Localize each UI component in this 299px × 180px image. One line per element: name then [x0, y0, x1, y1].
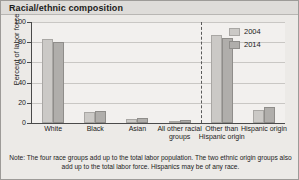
- gridline: [32, 62, 285, 63]
- legend-swatch-2004-icon: [229, 28, 240, 36]
- y-tick-label: 20: [1, 99, 26, 106]
- legend-item-2014: 2014: [229, 40, 287, 49]
- y-tick-label: 60: [1, 58, 26, 65]
- gridline: [32, 83, 285, 84]
- gridline: [32, 22, 285, 23]
- y-tick-label: 80: [1, 38, 26, 45]
- chart-figure: Racial/ethnic composition Percent of lab…: [0, 0, 299, 180]
- y-tick-label: 40: [1, 79, 26, 86]
- group-divider: [201, 22, 202, 123]
- bar-all-other-racial-groups-2014: [180, 120, 191, 123]
- bar-black-2014: [95, 111, 106, 123]
- y-axis-line: [31, 22, 32, 123]
- figure-note: Note: The four race groups add up to the…: [1, 153, 299, 171]
- bar-asian-2004: [126, 119, 137, 123]
- y-tick-label: 0: [1, 119, 26, 126]
- bar-white-2004: [42, 39, 53, 123]
- gridline: [32, 103, 285, 104]
- x-axis-line: [31, 123, 285, 124]
- bar-asian-2014: [137, 118, 148, 123]
- bar-hispanic-origin-2014: [264, 107, 275, 123]
- legend: 2004 2014: [229, 27, 287, 53]
- bar-other-than-hispanic-origin-2004: [211, 35, 222, 123]
- legend-label-2004: 2004: [244, 27, 261, 36]
- y-tick-mark: [27, 123, 32, 124]
- bar-hispanic-origin-2004: [253, 110, 264, 123]
- x-axis-label-hispanic-origin: Hispanic origin: [239, 125, 289, 133]
- legend-swatch-2014-icon: [229, 41, 240, 49]
- legend-item-2004: 2004: [229, 27, 287, 36]
- bar-white-2014: [53, 42, 64, 123]
- chart-title: Racial/ethnic composition: [9, 3, 123, 13]
- bar-all-other-racial-groups-2004: [169, 121, 180, 123]
- y-tick-label: 100: [1, 18, 26, 25]
- bar-black-2004: [84, 112, 95, 123]
- legend-label-2014: 2014: [244, 40, 261, 49]
